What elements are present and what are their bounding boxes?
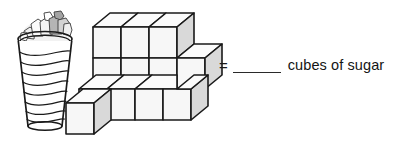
answer-blank-input[interactable] xyxy=(233,58,281,73)
worksheet-figure: = cubes of sugar xyxy=(0,0,414,149)
answer-unit-label: cubes of sugar xyxy=(288,57,385,73)
cube-top-row xyxy=(93,13,194,58)
cup-base xyxy=(28,122,62,131)
equals-sign: = xyxy=(219,58,228,73)
equation-row: = cubes of sugar xyxy=(219,52,414,78)
sugar-cube-stack xyxy=(66,13,222,134)
detached-single-cube xyxy=(66,89,111,134)
cup-of-sugar-icon xyxy=(18,11,72,130)
